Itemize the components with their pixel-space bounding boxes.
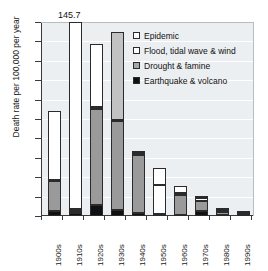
legend-label-earthquake: Earthquake & volcano xyxy=(144,76,227,86)
bar-segment-epidemic xyxy=(132,151,145,153)
x-tick-label-1930s: 1930s xyxy=(118,244,126,266)
bar-segment-drought xyxy=(132,155,145,212)
bar-segment-flood xyxy=(69,209,82,211)
bar-segment-epidemic xyxy=(69,22,82,209)
bar-segment-flood xyxy=(216,210,229,212)
bar-segment-flood xyxy=(132,153,145,155)
x-tick-label-1910s: 1910s xyxy=(76,244,84,266)
x-tick-mark xyxy=(125,216,126,220)
x-tick-mark xyxy=(83,216,84,220)
overflow-value-label: 145.7 xyxy=(58,10,81,20)
y-axis-label: Death rate per 100,000 per year xyxy=(11,0,21,157)
bar-segment-earthquake xyxy=(90,205,103,216)
x-tick-mark xyxy=(230,216,231,220)
bar-segment-flood xyxy=(195,198,208,200)
bar-segment-epidemic xyxy=(153,168,166,185)
chart-container: 0 5 10 15 20 25 30 35 40 45 50 Death rat… xyxy=(0,0,268,271)
chart-legend: Epidemic Flood, tidal wave & wind Drough… xyxy=(133,28,251,88)
bar-segment-drought xyxy=(195,201,208,211)
bar-segment-flood xyxy=(237,212,250,214)
bar-segment-drought xyxy=(216,212,229,215)
bar-segment-drought xyxy=(69,211,82,213)
legend-swatch-drought-icon xyxy=(133,62,140,69)
bar-segment-drought xyxy=(174,195,187,216)
legend-label-epidemic: Epidemic xyxy=(144,31,179,41)
legend-swatch-flood-icon xyxy=(133,47,140,54)
x-tick-label-1900s: 1900s xyxy=(55,244,63,266)
x-tick-label-1970s: 1970s xyxy=(202,244,210,266)
x-tick-label-1920s: 1920s xyxy=(97,244,105,266)
bar-segment-epidemic xyxy=(195,196,208,198)
legend-swatch-earthquake-icon xyxy=(133,77,140,84)
bar-segment-epidemic xyxy=(111,32,124,119)
bar-segment-flood xyxy=(90,107,103,109)
x-tick-mark xyxy=(167,216,168,220)
x-tick-mark xyxy=(104,216,105,220)
bar-segment-drought xyxy=(48,181,61,211)
bar-segment-epidemic xyxy=(174,186,187,194)
x-tick-mark xyxy=(251,216,252,220)
legend-item-earthquake: Earthquake & volcano xyxy=(133,73,251,88)
legend-label-flood: Flood, tidal wave & wind xyxy=(144,46,236,56)
bar-segment-earthquake xyxy=(111,210,124,216)
legend-label-drought: Drought & famine xyxy=(144,61,210,71)
x-tick-label-1950s: 1950s xyxy=(160,244,168,266)
x-tick-mark xyxy=(209,216,210,220)
bar-segment-epidemic xyxy=(216,208,229,210)
bar-segment-epidemic xyxy=(48,111,61,180)
x-tick-mark xyxy=(188,216,189,220)
x-tick-label-1980s: 1980s xyxy=(223,244,231,266)
x-tick-mark xyxy=(41,216,42,220)
legend-item-epidemic: Epidemic xyxy=(133,28,251,43)
bar-segment-drought xyxy=(90,109,103,204)
bar-segment-drought xyxy=(111,121,124,210)
legend-item-drought: Drought & famine xyxy=(133,58,251,73)
bar-segment-epidemic xyxy=(90,44,103,108)
x-tick-mark xyxy=(146,216,147,220)
x-tick-mark xyxy=(62,216,63,220)
legend-swatch-epidemic-icon xyxy=(133,32,140,39)
bar-segment-earthquake xyxy=(195,211,208,216)
bar-segment-earthquake xyxy=(48,211,61,216)
x-tick-label-1990s: 1990s xyxy=(244,244,252,266)
bar-segment-earthquake xyxy=(69,213,82,217)
legend-item-flood: Flood, tidal wave & wind xyxy=(133,43,251,58)
bar-segment-epidemic xyxy=(237,211,250,213)
x-tick-label-1960s: 1960s xyxy=(181,244,189,266)
x-tick-label-1940s: 1940s xyxy=(139,244,147,266)
bar-segment-earthquake xyxy=(132,213,145,217)
bar-segment-flood xyxy=(153,185,166,215)
